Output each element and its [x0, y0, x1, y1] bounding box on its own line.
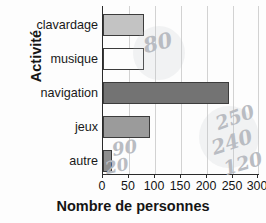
x-tick-50 — [128, 174, 129, 178]
x-tick-label-100: 100 — [144, 179, 165, 193]
x-tick-label-300: 300 — [247, 179, 266, 193]
x-tick-label-150: 150 — [170, 179, 191, 193]
x-tick-300 — [257, 174, 258, 178]
pencil-annotation-90: 90 — [110, 135, 138, 160]
x-tick-label-50: 50 — [121, 179, 135, 193]
x-tick-250 — [232, 174, 233, 178]
x-tick-label-200: 200 — [196, 179, 217, 193]
pencil-smudge — [199, 106, 259, 168]
plot-area: 80 250 90 240 120 20 — [102, 6, 259, 175]
x-tick-150 — [180, 174, 181, 178]
bar-autre — [103, 150, 112, 172]
x-axis-tick-labels: 0 50 100 150 200 250 300 — [102, 179, 260, 195]
bar-chart-figure: Activité clavardage musique navigation j… — [0, 0, 266, 223]
x-axis-title: Nombre de personnes — [0, 198, 266, 214]
x-tick-200 — [206, 174, 207, 178]
y-tick-label-clavardage: clavardage — [6, 18, 98, 32]
x-tick-label-250: 250 — [222, 179, 243, 193]
y-tick-label-musique: musique — [6, 52, 98, 66]
x-tick-100 — [154, 174, 155, 178]
y-axis-tick-labels: clavardage musique navigation jeux autre — [8, 6, 100, 174]
pencil-annotation-240: 240 — [208, 124, 255, 160]
bar-navigation — [103, 82, 229, 104]
bar-jeux — [103, 116, 150, 138]
x-tick-label-0: 0 — [99, 179, 106, 193]
bar-clavardage — [103, 14, 144, 36]
bar-musique — [103, 48, 144, 70]
pencil-annotation-80: 80 — [140, 27, 174, 58]
y-tick-label-jeux: jeux — [6, 120, 98, 134]
gridline-250 — [233, 6, 234, 174]
x-tick-0 — [102, 174, 103, 178]
y-tick-label-autre: autre — [6, 154, 98, 168]
pencil-annotation-250: 250 — [212, 100, 257, 134]
y-tick-label-navigation: navigation — [6, 86, 98, 100]
gridline-300 — [258, 6, 259, 174]
